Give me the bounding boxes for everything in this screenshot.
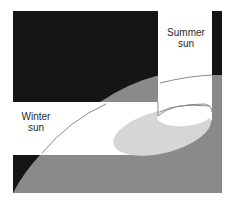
upper-dark-block: [13, 11, 160, 102]
summer-label-line2: sun: [164, 38, 208, 49]
ground-block: [13, 155, 222, 193]
summer-label-line1: Summer: [164, 27, 208, 38]
right-wall-bar: [212, 11, 222, 155]
winter-label-line1: Winter: [18, 111, 54, 122]
winter-sun-label: Winter sun: [18, 111, 54, 133]
summer-sun-label: Summer sun: [164, 27, 208, 49]
winter-label-line2: sun: [18, 122, 54, 133]
